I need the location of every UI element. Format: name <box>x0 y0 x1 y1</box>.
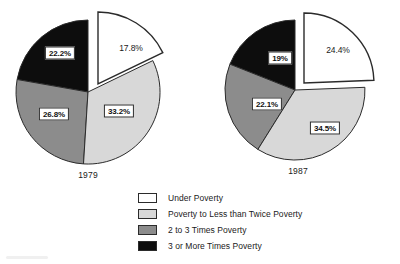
slice-label-1987-three-or-more: 19% <box>268 52 292 65</box>
year-label-1987: 1987 <box>288 166 308 176</box>
pie-1987-svg <box>210 0 400 185</box>
legend-item-twice-poverty: Poverty to Less than Twice Poverty <box>138 206 302 222</box>
legend-swatch-two-to-three <box>138 225 157 235</box>
pie-chart-figure: 22.2% 26.8% 33.2% 17.8% 1979 19% 22.1% 3… <box>0 0 400 264</box>
slice-label-1987-twice-poverty: 34.5% <box>310 122 340 135</box>
legend-label-under-poverty: Under Poverty <box>168 193 223 203</box>
legend-swatch-three-or-more <box>138 241 157 251</box>
legend-label-twice-poverty: Poverty to Less than Twice Poverty <box>168 209 302 219</box>
slice-label-1987-under-poverty: 24.4% <box>326 46 350 55</box>
slice-label-1979-two-to-three: 26.8% <box>39 108 69 121</box>
pie-chart-1979: 22.2% 26.8% 33.2% 17.8% 1979 <box>0 0 190 185</box>
year-label-1979: 1979 <box>78 170 98 180</box>
pie-chart-1987: 19% 22.1% 34.5% 24.4% 1987 <box>210 0 400 185</box>
legend-item-two-to-three: 2 to 3 Times Poverty <box>138 222 302 238</box>
legend-swatch-under-poverty <box>138 193 157 203</box>
legend-label-three-or-more: 3 or More Times Poverty <box>168 241 262 251</box>
slice-label-1979-twice-poverty: 33.2% <box>104 105 134 118</box>
legend-item-under-poverty: Under Poverty <box>138 190 302 206</box>
slice-label-1987-two-to-three: 22.1% <box>252 98 282 111</box>
slice-label-1979-under-poverty: 17.8% <box>119 44 143 53</box>
slice-1979-two-to-three <box>16 80 88 164</box>
legend-label-two-to-three: 2 to 3 Times Poverty <box>168 225 246 235</box>
legend-swatch-twice-poverty <box>138 209 157 219</box>
pie-1979-svg <box>0 0 190 185</box>
chart-legend: Under Poverty Poverty to Less than Twice… <box>138 190 302 254</box>
scan-artifact <box>6 256 48 259</box>
legend-item-three-or-more: 3 or More Times Poverty <box>138 238 302 254</box>
slice-label-1979-three-or-more: 22.2% <box>45 47 75 60</box>
